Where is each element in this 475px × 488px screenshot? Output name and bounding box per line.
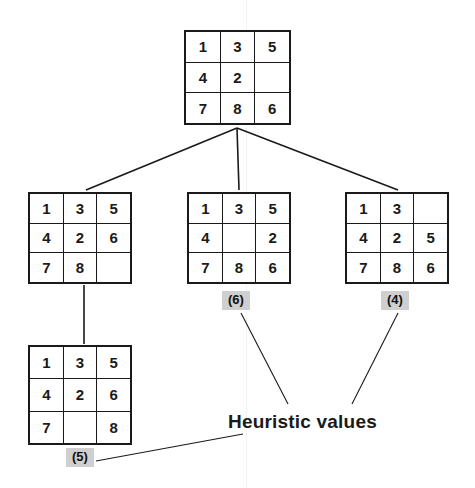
puzzle-cell: 5 [414, 224, 447, 253]
puzzle-cell: 7 [30, 253, 63, 282]
puzzle-cell: 1 [347, 194, 380, 223]
puzzle-cell: 3 [64, 347, 97, 378]
puzzle-cell: 5 [256, 194, 289, 223]
puzzle-cell-blank [223, 224, 256, 253]
puzzle-cell: 4 [30, 379, 63, 410]
puzzle-cell-blank [97, 253, 130, 282]
puzzle-cell: 8 [223, 253, 256, 282]
puzzle-cell: 3 [381, 194, 414, 223]
puzzle-cell: 2 [64, 224, 97, 253]
heuristic-value-badge: (5) [66, 448, 94, 467]
puzzle-cell: 4 [347, 224, 380, 253]
puzzle-cell: 2 [221, 63, 255, 93]
edge-root-to-right [237, 128, 398, 190]
search-tree-diagram: 135427861354267813542786(6)13425786(4)13… [0, 0, 475, 488]
puzzle-cell: 6 [97, 224, 130, 253]
puzzle-cell: 7 [186, 93, 220, 123]
puzzle-cell: 6 [256, 253, 289, 282]
puzzle-cell: 3 [64, 194, 97, 223]
puzzle-cell: 2 [256, 224, 289, 253]
grandchild-node: 13542678 [28, 345, 132, 445]
puzzle-cell: 2 [64, 379, 97, 410]
edge-root-to-left [86, 128, 237, 190]
heuristic-values-caption: Heuristic values [228, 411, 377, 433]
puzzle-cell: 6 [255, 93, 289, 123]
puzzle-cell: 3 [221, 32, 255, 62]
child-middle-node: 13542786 [187, 192, 291, 284]
leader-line-right-heuristic [352, 313, 398, 404]
puzzle-cell: 1 [189, 194, 222, 223]
puzzle-cell-blank [255, 63, 289, 93]
puzzle-cell: 3 [223, 194, 256, 223]
puzzle-cell-blank [64, 412, 97, 443]
puzzle-cell: 2 [381, 224, 414, 253]
heuristic-value-badge: (6) [222, 291, 250, 310]
puzzle-cell-blank [414, 194, 447, 223]
puzzle-cell: 5 [255, 32, 289, 62]
heuristic-value-badge: (4) [381, 291, 409, 310]
puzzle-cell: 1 [30, 347, 63, 378]
child-right-node: 13425786 [345, 192, 449, 284]
puzzle-cell: 4 [186, 63, 220, 93]
puzzle-cell: 1 [186, 32, 220, 62]
puzzle-cell: 8 [221, 93, 255, 123]
puzzle-cell: 7 [347, 253, 380, 282]
puzzle-cell: 8 [64, 253, 97, 282]
puzzle-cell: 1 [30, 194, 63, 223]
puzzle-cell: 8 [381, 253, 414, 282]
child-left-node: 13542678 [28, 192, 132, 284]
puzzle-cell: 6 [97, 379, 130, 410]
root-node: 13542786 [184, 30, 291, 125]
leader-line-middle-heuristic [241, 313, 288, 404]
puzzle-cell: 5 [97, 347, 130, 378]
puzzle-cell: 4 [30, 224, 63, 253]
puzzle-cell: 4 [189, 224, 222, 253]
puzzle-cell: 8 [97, 412, 130, 443]
edge-root-to-middle [237, 128, 239, 190]
puzzle-cell: 6 [414, 253, 447, 282]
puzzle-cell: 5 [97, 194, 130, 223]
puzzle-cell: 7 [189, 253, 222, 282]
puzzle-cell: 7 [30, 412, 63, 443]
